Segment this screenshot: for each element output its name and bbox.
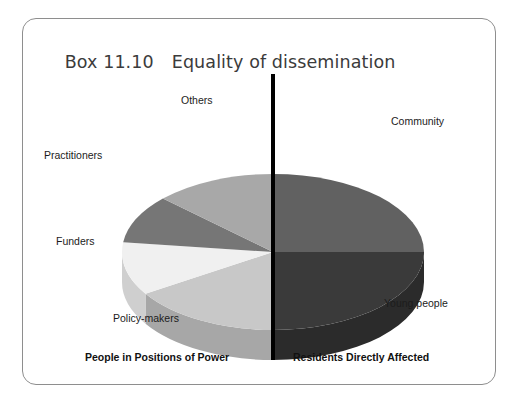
figure-root: Box 11.10Equality of dissemination Other… [0, 0, 519, 404]
vertical-divider [271, 74, 275, 360]
slice-community [273, 174, 424, 252]
pie-chart [22, 60, 496, 385]
slice-label-practitioners: Practitioners [44, 149, 102, 161]
group-caption-right: Residents Directly Affected [293, 351, 429, 363]
slice-label-young-people: Young people [384, 297, 448, 309]
slice-label-others: Others [181, 94, 213, 106]
slice-label-policy-makers: Policy-makers [113, 312, 179, 324]
pie-chart-svg [22, 60, 496, 385]
slice-label-funders: Funders [56, 235, 95, 247]
group-caption-left: People in Positions of Power [85, 351, 229, 363]
slice-label-community: Community [391, 115, 444, 127]
